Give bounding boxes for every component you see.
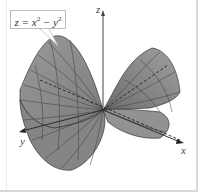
equation-label: z = x2 − y2 — [10, 10, 66, 29]
surface-left-lobe — [20, 36, 103, 128]
y-axis-label: y — [20, 135, 25, 147]
surface-right-lobe — [103, 48, 180, 110]
z-axis-label: z — [96, 3, 100, 15]
x-axis-label: x — [181, 144, 186, 156]
